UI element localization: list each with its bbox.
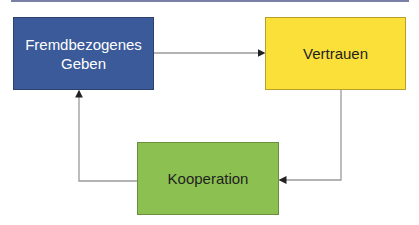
node-label: Fremdbezogenes Geben — [14, 35, 153, 73]
edge-kooperation-to-geben — [79, 91, 137, 181]
node-kooperation: Kooperation — [137, 142, 279, 215]
edge-vertrauen-to-kooperation — [280, 90, 341, 180]
node-vertrauen: Vertrauen — [265, 17, 406, 90]
node-label: Vertrauen — [303, 44, 368, 63]
node-fremdbezogenes-geben: Fremdbezogenes Geben — [13, 17, 154, 90]
node-label: Kooperation — [168, 169, 249, 188]
